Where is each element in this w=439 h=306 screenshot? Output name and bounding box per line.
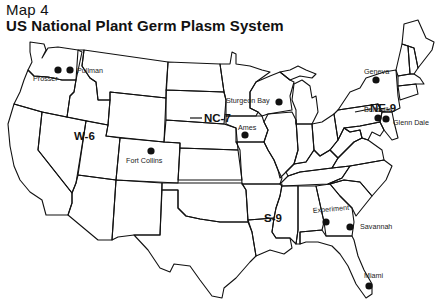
state-florida bbox=[300, 230, 372, 298]
site-label: Fort Collins bbox=[126, 156, 163, 165]
region-label-nc7: NC-7 bbox=[204, 112, 231, 124]
state-maryland bbox=[344, 122, 384, 140]
site-prosser[interactable]: Prosser bbox=[33, 66, 62, 83]
site-label: Ames bbox=[238, 123, 257, 132]
state-indiana bbox=[294, 120, 314, 164]
state-oklahoma bbox=[162, 183, 248, 222]
state-connecticut bbox=[398, 84, 418, 100]
site-label: Experiment bbox=[312, 203, 349, 215]
site-label: Miami bbox=[364, 271, 384, 280]
site-geneva[interactable]: Geneva bbox=[364, 67, 389, 84]
site-label: Sturgeon Bay bbox=[226, 96, 270, 105]
site-label: Pullman bbox=[77, 66, 103, 75]
state-montana bbox=[82, 50, 168, 100]
state-west-virginia bbox=[330, 128, 362, 158]
site-label: Geneva bbox=[364, 67, 389, 76]
state-california bbox=[8, 104, 72, 215]
site-fort-collins[interactable]: Fort Collins bbox=[126, 147, 163, 165]
site-marker bbox=[365, 282, 372, 289]
state-idaho bbox=[67, 50, 110, 125]
state-maine bbox=[402, 20, 434, 68]
site-experiment[interactable]: Experiment bbox=[312, 203, 349, 226]
state-north-dakota bbox=[166, 62, 224, 92]
site-marker bbox=[322, 218, 329, 225]
state-kansas bbox=[178, 148, 242, 180]
site-marker bbox=[346, 223, 353, 230]
site-marker bbox=[372, 76, 379, 83]
state-nevada bbox=[38, 112, 86, 193]
site-sturgeon-bay[interactable]: Sturgeon Bay bbox=[226, 96, 283, 106]
site-label: Savannah bbox=[360, 222, 392, 231]
state-outlines bbox=[8, 20, 434, 298]
site-marker bbox=[54, 66, 61, 73]
site-marker bbox=[275, 98, 282, 105]
site-marker bbox=[374, 114, 381, 121]
state-michigan bbox=[292, 80, 318, 124]
state-virginia bbox=[332, 138, 384, 168]
site-marker bbox=[382, 115, 389, 122]
state-michigan-up bbox=[280, 66, 316, 80]
site-marker bbox=[241, 131, 248, 138]
site-label: Prosser bbox=[33, 74, 58, 83]
us-map: W-6 NC-7 NE-9 S-9 Prosser Pullman Fort C… bbox=[0, 0, 439, 306]
germplasm-sites: Prosser Pullman Fort Collins Sturgeon Ba… bbox=[33, 66, 429, 290]
state-wyoming bbox=[106, 92, 166, 142]
state-north-carolina bbox=[328, 160, 392, 196]
site-label: Beltsville bbox=[364, 105, 392, 114]
site-marker bbox=[147, 147, 154, 154]
state-ohio bbox=[312, 114, 338, 156]
state-illinois bbox=[264, 112, 298, 178]
site-marker bbox=[66, 66, 73, 73]
state-texas bbox=[134, 190, 256, 298]
site-pullman[interactable]: Pullman bbox=[66, 66, 103, 75]
site-miami[interactable]: Miami bbox=[364, 271, 384, 290]
region-label-w6: W-6 bbox=[74, 130, 95, 142]
state-minnesota bbox=[220, 52, 270, 116]
state-new-mexico bbox=[112, 180, 162, 240]
site-glenn-dale[interactable]: Glenn Dale bbox=[382, 115, 429, 127]
state-tennessee bbox=[280, 166, 350, 186]
region-label-s9: S-9 bbox=[264, 212, 282, 224]
state-arizona bbox=[68, 175, 116, 240]
site-ames[interactable]: Ames bbox=[238, 123, 257, 139]
site-label: Glenn Dale bbox=[393, 118, 429, 127]
